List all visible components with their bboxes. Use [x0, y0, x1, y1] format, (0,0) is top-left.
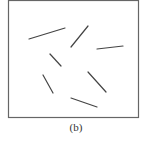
figure-frame: [9, 1, 139, 118]
line-segment-5: [43, 75, 53, 93]
line-segments-group: [29, 26, 123, 107]
line-segment-7: [71, 98, 97, 107]
line-segment-1: [29, 28, 65, 39]
figure-panel: (b): [0, 0, 144, 141]
figure-caption: (b): [0, 121, 144, 134]
line-segment-6: [88, 72, 106, 92]
line-segment-3: [97, 46, 123, 49]
line-segments-diagram: [0, 0, 144, 141]
line-segment-4: [50, 54, 61, 66]
line-segment-2: [71, 26, 88, 47]
